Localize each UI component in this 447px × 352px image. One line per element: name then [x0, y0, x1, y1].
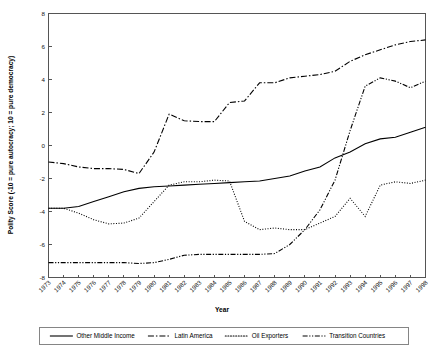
y-axis-title: Polity Score (-10 = pure autocracy; 10 =… — [7, 56, 15, 234]
y-tick-label: -2 — [39, 175, 45, 182]
x-axis-title: Year — [215, 306, 229, 313]
y-tick-label: 2 — [42, 109, 46, 116]
legend-label[interactable]: Latin America — [174, 332, 213, 339]
legend-label[interactable]: Other Middle Income — [76, 332, 135, 339]
polity-score-line-chart: -8-6-4-202468 19731974197519761977197819… — [0, 0, 447, 352]
y-tick-label: 6 — [42, 43, 46, 50]
y-tick-label: 0 — [42, 142, 46, 149]
chart-legend: Other Middle IncomeLatin AmericaOil Expo… — [40, 328, 409, 345]
y-tick-label: -4 — [39, 208, 45, 215]
chart-figure: -8-6-4-202468 19731974197519761977197819… — [0, 0, 447, 352]
legend-label[interactable]: Oil Exporters — [252, 332, 288, 340]
legend-label[interactable]: Transition Countries — [329, 332, 385, 339]
y-tick-label: 4 — [42, 76, 46, 83]
y-tick-label: -6 — [39, 241, 45, 248]
y-tick-label: 8 — [42, 10, 46, 17]
chart-background — [0, 0, 447, 352]
